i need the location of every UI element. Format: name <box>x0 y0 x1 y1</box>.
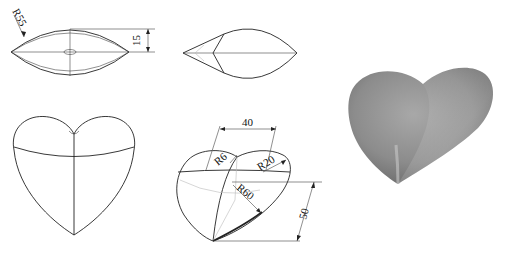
top-view-heart <box>13 116 134 235</box>
dim-50: 50 <box>296 206 311 220</box>
iso-bottom-shadow-edge <box>213 212 262 241</box>
isometric-view: 40 R6 R20 R60 50 <box>177 116 322 241</box>
side-profile-view <box>183 29 297 78</box>
dim-R55: R55 <box>10 6 29 28</box>
side-inner-facet <box>213 34 224 73</box>
dim-15: 15 <box>130 35 142 47</box>
r20-arrow <box>281 160 286 165</box>
3d-shaded-render <box>348 68 493 184</box>
dim50-arrow-top <box>311 182 315 188</box>
drawing-canvas: R55 15 40 <box>0 0 508 255</box>
side-lower-outline <box>183 53 297 78</box>
dim40-arrow-left <box>220 127 225 131</box>
side-upper-outline <box>183 29 297 53</box>
dim15-arrow-bottom <box>146 47 150 52</box>
front-profile-view: R55 15 <box>10 6 155 76</box>
dim-40: 40 <box>242 116 254 128</box>
dim-R60: R60 <box>235 181 257 202</box>
dim50-arrow-bottom <box>297 235 301 241</box>
side-facet-hint-1 <box>195 45 204 53</box>
dim15-arrow-top <box>146 29 150 34</box>
iso-horizontal-curve <box>178 170 290 172</box>
dim-R20: R20 <box>255 153 277 173</box>
